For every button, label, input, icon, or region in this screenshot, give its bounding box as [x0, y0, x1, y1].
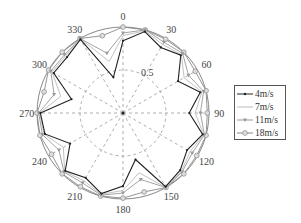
legend-label: 18m/s — [255, 128, 278, 138]
angle-tick-label: 120 — [199, 156, 214, 167]
angle-tick-label: 180 — [116, 204, 131, 215]
marker-dot — [144, 30, 146, 32]
marker-dot — [44, 133, 46, 135]
legend-swatch-icon — [237, 115, 253, 125]
marker-dot — [70, 98, 72, 100]
marker-circle — [49, 152, 54, 157]
grid-spoke — [123, 70, 197, 113]
legend-item-7m/s: 7m/s — [237, 101, 273, 113]
marker-circle — [78, 184, 83, 189]
radial-tick-label: 0.5 — [141, 67, 154, 78]
marker-circle — [142, 190, 147, 195]
marker-dot — [186, 149, 188, 151]
marker-dot — [64, 170, 66, 172]
angle-tick-label: 330 — [67, 24, 82, 35]
angle-tick-label: 150 — [164, 191, 179, 202]
marker-triangle — [190, 151, 194, 155]
marker-circle — [121, 25, 126, 30]
grid-spoke — [49, 70, 123, 113]
legend-item-4m/s: 4m/s — [237, 88, 273, 100]
marker-dot — [188, 112, 190, 114]
marker-dot — [39, 112, 41, 114]
marker-triangle — [105, 52, 109, 56]
marker-dot — [180, 54, 182, 56]
marker-dot — [84, 177, 86, 179]
angle-tick-label: 90 — [214, 108, 224, 119]
marker-dot — [66, 56, 68, 58]
legend: 4m/s7m/s11m/s18m/s — [234, 85, 286, 140]
legend-label: 11m/s — [255, 115, 278, 125]
marker-circle — [42, 89, 47, 94]
marker-dot — [79, 38, 81, 40]
legend-swatch-icon — [237, 128, 253, 138]
marker-dot — [122, 40, 124, 42]
legend-swatch-icon — [237, 102, 253, 112]
angle-tick-label: 0 — [121, 11, 126, 22]
angle-tick-label: 240 — [32, 156, 47, 167]
angle-tick-label: 30 — [166, 24, 176, 35]
marker-dot — [100, 192, 102, 194]
marker-dot — [164, 186, 166, 188]
angle-tick-label: 210 — [67, 191, 82, 202]
legend-item-18m/s: 18m/s — [237, 127, 278, 139]
marker-dot — [122, 185, 124, 187]
angle-tick-label: 300 — [32, 59, 47, 70]
marker-dot — [179, 169, 181, 171]
legend-label: 4m/s — [255, 89, 273, 99]
marker-dot — [160, 46, 162, 48]
legend-label: 7m/s — [255, 102, 273, 112]
marker-dot — [202, 133, 204, 135]
marker-circle — [121, 196, 126, 201]
marker-triangle — [57, 148, 61, 152]
marker-dot — [112, 76, 114, 78]
marker-dot — [69, 142, 71, 144]
marker-circle — [205, 111, 210, 116]
marker-circle — [193, 69, 198, 74]
angle-tick-label: 60 — [201, 59, 211, 70]
marker-dot — [199, 91, 201, 93]
marker-dot — [177, 80, 179, 82]
legend-swatch-icon — [237, 89, 253, 99]
angle-tick-label: 270 — [19, 108, 34, 119]
center-dot — [122, 112, 125, 115]
grid-spoke — [80, 113, 123, 187]
legend-item-11m/s: 11m/s — [237, 114, 278, 126]
marker-dot — [134, 158, 136, 160]
marker-dot — [53, 72, 55, 74]
marker-circle — [100, 33, 105, 38]
